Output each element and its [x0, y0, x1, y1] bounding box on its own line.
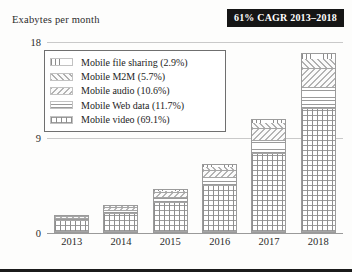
legend-item-file_sharing[interactable]: Mobile file sharing (2.9%) — [50, 55, 219, 69]
bar-segment — [203, 178, 236, 186]
bar-segment — [252, 141, 285, 154]
legend-item-video[interactable]: Mobile video (69.1%) — [50, 113, 219, 127]
legend-swatch-video — [50, 116, 73, 124]
legend-swatch-web_data — [50, 101, 73, 109]
y-tick-label-18: 18 — [31, 37, 42, 48]
legend-label-web_data: Mobile Web data (11.7%) — [81, 100, 184, 111]
gridline-0 — [47, 233, 343, 234]
legend-swatch-file_sharing — [50, 58, 73, 66]
legend: Mobile file sharing (2.9%)Mobile M2M (5.… — [44, 50, 226, 132]
cagr-badge: 61% CAGR 2013–2018 — [227, 9, 344, 27]
x-tick-label-2013: 2013 — [47, 236, 96, 247]
stacked-bar-2014[interactable] — [103, 205, 138, 233]
legend-label-video: Mobile video (69.1%) — [81, 114, 170, 125]
stacked-bar-2013[interactable] — [54, 215, 89, 233]
stacked-bar-2016[interactable] — [202, 164, 237, 233]
bar-slot-2018 — [294, 42, 343, 233]
bar-segment — [203, 186, 236, 232]
bar-segment — [252, 154, 285, 232]
bar-slot-2017 — [244, 42, 293, 233]
chart-figure: Exabytes per month 61% CAGR 2013–2018 09… — [0, 0, 352, 272]
bar-segment — [55, 221, 88, 232]
legend-swatch-audio — [50, 87, 73, 95]
x-tick-label-2016: 2016 — [195, 236, 244, 247]
y-axis-title: Exabytes per month — [12, 14, 100, 25]
x-axis-labels: 201320142015201620172018 — [47, 236, 343, 247]
legend-swatch-m2m — [50, 73, 73, 81]
stacked-bar-2018[interactable] — [301, 53, 336, 233]
x-tick-label-2017: 2017 — [244, 236, 293, 247]
bar-segment — [302, 88, 335, 109]
legend-item-m2m[interactable]: Mobile M2M (5.7%) — [50, 69, 219, 83]
y-tick-label-0: 0 — [36, 228, 41, 239]
bar-segment — [302, 109, 335, 232]
legend-label-m2m: Mobile M2M (5.7%) — [81, 71, 165, 82]
legend-item-web_data[interactable]: Mobile Web data (11.7%) — [50, 98, 219, 112]
bar-segment — [104, 214, 137, 232]
bar-segment — [203, 171, 236, 178]
x-tick-label-2014: 2014 — [96, 236, 145, 247]
legend-label-audio: Mobile audio (10.6%) — [81, 85, 170, 96]
x-tick-label-2015: 2015 — [146, 236, 195, 247]
bar-segment — [252, 129, 285, 141]
legend-item-audio[interactable]: Mobile audio (10.6%) — [50, 84, 219, 98]
stacked-bar-2017[interactable] — [251, 119, 286, 233]
legend-label-file_sharing: Mobile file sharing (2.9%) — [81, 57, 188, 68]
bar-segment — [302, 59, 335, 69]
bar-segment — [154, 203, 187, 232]
stacked-bar-2015[interactable] — [153, 189, 188, 233]
bar-segment — [302, 69, 335, 88]
y-tick-label-9: 9 — [36, 132, 41, 143]
x-tick-label-2018: 2018 — [294, 236, 343, 247]
